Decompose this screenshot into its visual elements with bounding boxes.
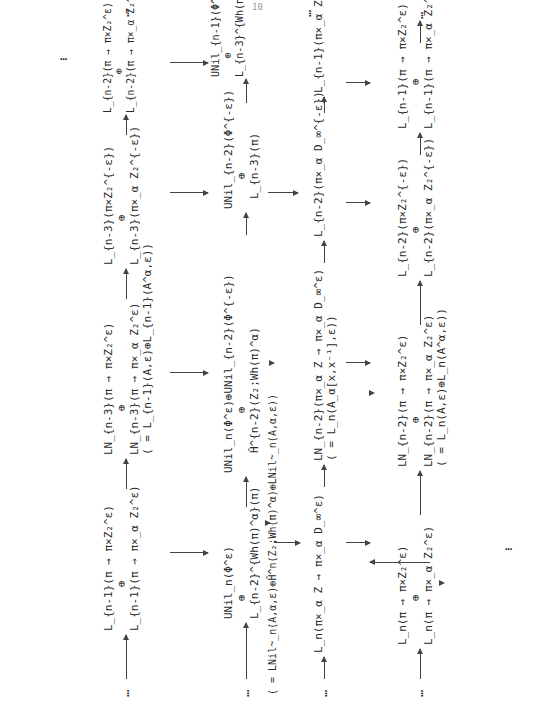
varrow-c3-23 bbox=[268, 192, 298, 193]
term: LN_{n-3}(π → π×Z₂^ε) bbox=[102, 243, 115, 455]
node-r2-c1: L_n(π×_α Z → π×_α D_∞^ε) bbox=[312, 494, 325, 653]
direct-sum: ⊕ bbox=[409, 526, 422, 645]
term: L_{n-2}^{Wh(π)^α}(π) bbox=[248, 487, 261, 619]
term: UNil_{n-1}(Φ^ε) bbox=[210, 0, 222, 77]
term: LN_{n-2}(π×_α Z → π×_α D_∞^ε) bbox=[312, 269, 325, 461]
direct-sum: ⊕ bbox=[115, 485, 128, 631]
varrow-c2-12 bbox=[346, 362, 370, 363]
ellipsis-r1-start: … bbox=[412, 688, 426, 697]
node-r1-c3: L_{n-2}(π×Z₂^{-ε}) ⊕ L_{n-2}(π×_α Z₂^{-ε… bbox=[396, 138, 435, 277]
term: UNil_n(Φ^ε)⊕UNil_{n-2}(Φ^{-ε}) bbox=[222, 274, 235, 473]
node-r3-identification: ( = LNil~_n(A,α,ε)⊕Ĥ^n(Z₂;Wh(π)^α)⊕LNil~… bbox=[266, 394, 279, 695]
direct-sum: ⊕ bbox=[115, 126, 128, 265]
identification: ( = LNil~_n(A,α,ε)⊕Ĥ^n(Z₂;Wh(π)^α)⊕LNil~… bbox=[266, 394, 279, 695]
term: L_{n-3}(π×_α Z₂^{-ε}) bbox=[128, 126, 141, 265]
varrow-c3-12 bbox=[346, 202, 370, 203]
node-r3-c2: UNil_n(Φ^ε)⊕UNil_{n-2}(Φ^{-ε}) ⊕ Ĥ^{n-2}… bbox=[222, 274, 261, 473]
arrow-r1-b bbox=[420, 471, 421, 515]
term: L_{n-3}(π×Z₂^{-ε}) bbox=[102, 126, 115, 265]
ellipsis-top-c1: … bbox=[505, 539, 514, 553]
ellipsis-r4-start: … bbox=[118, 688, 132, 697]
direct-sum: ⊕ bbox=[409, 138, 422, 277]
arrow-r3-d bbox=[246, 79, 247, 103]
ellipsis-r4-end: … bbox=[118, 8, 132, 17]
page-number: 10 bbox=[252, 2, 263, 12]
node-r4-c3: L_{n-3}(π×Z₂^{-ε}) ⊕ L_{n-3}(π×_α Z₂^{-ε… bbox=[102, 126, 141, 265]
node-r1-c2: LN_{n-2}(π → π×Z₂^ε) ⊕ LN_{n-2}(π → π×_α… bbox=[396, 308, 448, 467]
term: L_{n-1}(π → π×_α Z₂^ε) bbox=[422, 0, 435, 129]
arrow-r4-b bbox=[126, 459, 127, 489]
term: UNil_{n-2}(Φ^{-ε}) bbox=[222, 90, 235, 209]
node-r3-c1: UNil_n(Φ^ε) ⊕ L_{n-2}^{Wh(π)^α}(π) bbox=[222, 487, 261, 619]
ellipsis-r1-end: … bbox=[412, 10, 426, 19]
arrow-r4-c bbox=[126, 269, 127, 299]
arrow-r4-a bbox=[126, 635, 127, 679]
arrow-r2-a bbox=[324, 657, 325, 679]
term: L_{n-1}(π → π×_α Z₂^ε) bbox=[128, 485, 141, 631]
arrow-r2-c bbox=[324, 241, 325, 263]
arrow-r1-c bbox=[420, 281, 421, 325]
term: LN_{n-2}(π → π×Z₂^ε) bbox=[396, 308, 409, 467]
node-r1-c4: L_{n-1}(π → π×Z₂^ε) ⊕ L_{n-1}(π → π×_α Z… bbox=[396, 0, 435, 129]
node-r4-c2: LN_{n-3}(π → π×Z₂^ε) ⊕ LN_{n-3}(π → π×_α… bbox=[102, 243, 154, 455]
node-r2-c3: L_{n-2}(π×_α D_∞^{-ε}) bbox=[312, 91, 325, 237]
varrow-c1-23 bbox=[274, 542, 300, 543]
term: L_{n-2}(π → π×Z₂^ε) bbox=[102, 0, 113, 113]
term: LN_{n-3}(π → π×_α Z₂^ε) bbox=[128, 243, 141, 455]
varrow-c4-12 bbox=[346, 82, 370, 83]
ellipsis-r2-end: … bbox=[300, 8, 314, 17]
varrow-c1-12 bbox=[370, 562, 430, 563]
ellipsis-bottom-c4: … bbox=[60, 49, 69, 63]
ellipsis-r3-start: … bbox=[238, 688, 252, 697]
node-r4-c1: L_{n-1}(π → π×Z₂^ε) ⊕ L_{n-1}(π → π×_α Z… bbox=[102, 485, 141, 631]
direct-sum: ⊕ bbox=[222, 0, 234, 77]
term: L_{n-2}(π×Z₂^{-ε}) bbox=[396, 138, 409, 277]
term: UNil_n(Φ^ε) bbox=[222, 487, 235, 619]
term: Ĥ^{n-2}(Z₂;Wh(π)^α) bbox=[248, 274, 261, 473]
arrow-r4-d bbox=[126, 115, 127, 135]
varrow-c2-34 bbox=[170, 372, 208, 373]
node-r2-c2: LN_{n-2}(π×_α Z → π×_α D_∞^ε) ( = L_n(A_… bbox=[312, 269, 338, 461]
direct-sum: ⊕ bbox=[409, 308, 422, 467]
node-r3-c4: UNil_{n-1}(Φ^ε) ⊕ L_{n-3}^{Wh(π)^α}(π) bbox=[210, 0, 246, 77]
identification: ( = L_{n-1}(A,ε)⊕L_{n-1}(A^α,ε)) bbox=[141, 243, 154, 455]
identification: ( = L_n(A_α[x,x⁻¹],ε)) bbox=[325, 269, 338, 461]
direct-sum: ⊕ bbox=[235, 90, 248, 209]
term: LN_{n-2}(π → π×_α Z₂^ε) bbox=[422, 308, 435, 467]
arrow-r3-c bbox=[246, 213, 247, 235]
term: L_{n-3}(π) bbox=[248, 90, 261, 209]
varrow-c1-12b bbox=[346, 542, 370, 543]
arrow-r1-d bbox=[420, 133, 421, 155]
term: L_n(π → π×Z₂^ε) bbox=[396, 526, 409, 645]
rotated-page: … L_n(π → π×Z₂^ε) ⊕ L_n(π → π×_α Z₂^ε) L… bbox=[0, 0, 533, 703]
term: L_{n-1}(π → π×Z₂^ε) bbox=[102, 485, 115, 631]
varrow-c4-34 bbox=[170, 62, 208, 63]
node-r3-c3: UNil_{n-2}(Φ^{-ε}) ⊕ L_{n-3}(π) bbox=[222, 90, 261, 209]
arrow-r2-b bbox=[324, 465, 325, 487]
term: L_{n-2}(π×_α Z₂^{-ε}) bbox=[422, 138, 435, 277]
term: L_{n-2}(π×_α D_∞^{-ε}) bbox=[312, 91, 325, 237]
ellipsis-r2-start: … bbox=[316, 688, 330, 697]
arrow-r1-a bbox=[420, 649, 421, 679]
identification: ( = L_n(A,ε)⊕L_n(A^α,ε)) bbox=[435, 308, 448, 467]
direct-sum: ⊕ bbox=[235, 274, 248, 473]
arrow-r3-b bbox=[246, 477, 247, 507]
term: L_n(π×_α Z → π×_α D_∞^ε) bbox=[312, 494, 325, 653]
arrow-r2-d bbox=[324, 97, 325, 113]
term: L_{n-1}(π → π×Z₂^ε) bbox=[396, 0, 409, 129]
term: L_{n-3}^{Wh(π)^α}(π) bbox=[234, 0, 246, 77]
term: L_n(π → π×_α Z₂^ε) bbox=[422, 526, 435, 645]
node-r1-c1: L_n(π → π×Z₂^ε) ⊕ L_n(π → π×_α Z₂^ε) bbox=[396, 526, 435, 645]
varrow-c1-34 bbox=[170, 552, 208, 553]
arrow-r1-e bbox=[420, 21, 421, 43]
arrow-r3-a bbox=[246, 623, 247, 679]
varrow-c3-34 bbox=[170, 192, 208, 193]
